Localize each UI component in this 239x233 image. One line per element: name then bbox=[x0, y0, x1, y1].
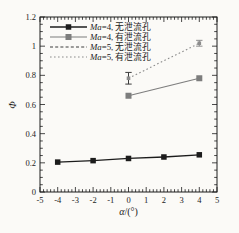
marker-square-0 bbox=[90, 158, 96, 164]
series-1 bbox=[126, 75, 203, 99]
legend-entry-1: Ma=4, 有泄流孔 bbox=[50, 31, 152, 42]
marker-square-0 bbox=[126, 156, 132, 162]
legend-entry-2: Ma=5, 无泄流孔 bbox=[50, 41, 152, 52]
legend-entry-0: Ma=4, 无泄流孔 bbox=[50, 21, 152, 32]
legend-label: Ma=4, 有泄流孔 bbox=[89, 31, 152, 42]
marker-square-0 bbox=[55, 159, 61, 165]
x-tick-label: 5 bbox=[215, 195, 219, 205]
y-tick-label: 0.8 bbox=[25, 70, 36, 80]
series-line-1 bbox=[129, 78, 200, 96]
x-tick-label: -4 bbox=[54, 195, 62, 205]
legend-label: Ma=4, 无泄流孔 bbox=[89, 21, 152, 32]
legend-label: Ma=5, 有泄流孔 bbox=[89, 51, 152, 62]
marker-square-1 bbox=[126, 93, 132, 99]
x-tick-label: -5 bbox=[36, 195, 43, 205]
series-0 bbox=[55, 152, 202, 165]
legend-marker bbox=[66, 24, 72, 30]
x-tick-label: 4 bbox=[197, 195, 202, 205]
y-tick-label: 0.4 bbox=[25, 129, 36, 139]
figure: -5-4-3-2-101234500.20.40.60.811.2α/(°)ΦM… bbox=[0, 0, 239, 233]
legend-label: Ma=5, 无泄流孔 bbox=[89, 41, 152, 52]
y-tick-label: 1.2 bbox=[25, 12, 36, 22]
y-tick-label: 0.2 bbox=[25, 158, 36, 168]
x-tick-label: 0 bbox=[126, 195, 130, 205]
legend-entry-3: Ma=5, 有泄流孔 bbox=[50, 51, 152, 62]
marker-square-1 bbox=[196, 75, 202, 81]
x-tick-label: -1 bbox=[107, 195, 114, 205]
y-tick-label: 1 bbox=[32, 41, 36, 51]
marker-square-0 bbox=[197, 152, 203, 158]
y-tick-label: 0.6 bbox=[25, 100, 36, 110]
x-tick-label: 1 bbox=[144, 195, 148, 205]
x-tick-label: -2 bbox=[90, 195, 97, 205]
marker-square-3 bbox=[127, 76, 131, 80]
x-tick-label: 3 bbox=[179, 195, 183, 205]
marker-square-3 bbox=[198, 41, 202, 45]
y-axis-label: Φ bbox=[7, 101, 18, 109]
y-tick-label: 0 bbox=[32, 187, 36, 197]
x-axis-label: α/(°) bbox=[119, 206, 138, 218]
marker-square-0 bbox=[161, 154, 167, 160]
legend-marker bbox=[66, 34, 72, 40]
x-tick-label: 2 bbox=[162, 195, 166, 205]
x-tick-label: -3 bbox=[72, 195, 79, 205]
line-chart: -5-4-3-2-101234500.20.40.60.811.2α/(°)ΦM… bbox=[0, 0, 239, 233]
